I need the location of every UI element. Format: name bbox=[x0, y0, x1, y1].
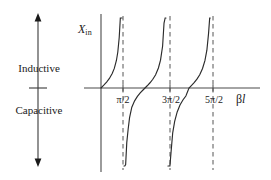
x-tick-label-2: 5π/2 bbox=[197, 94, 231, 105]
reactance-curves bbox=[101, 18, 210, 166]
asymptote-lines bbox=[123, 16, 213, 170]
arrow-down-icon bbox=[35, 159, 42, 168]
arrow-up-icon bbox=[35, 13, 42, 22]
reactance-sign-arrow bbox=[29, 13, 47, 167]
y-axis-label: Xin bbox=[78, 23, 92, 37]
x-tick-label-0: π/2 bbox=[109, 94, 137, 105]
x-axis-label-variable: l bbox=[242, 92, 245, 106]
curve-branch-3 bbox=[168, 18, 210, 166]
curve-branch-1 bbox=[101, 18, 122, 88]
inductive-label: Inductive bbox=[8, 63, 70, 74]
curve-branch-2 bbox=[124, 18, 166, 166]
y-axis-label-subscript: in bbox=[85, 28, 92, 37]
capacitive-label: Capacitive bbox=[5, 105, 73, 116]
x-axis-label: βl bbox=[236, 93, 245, 105]
plot-svg bbox=[0, 0, 271, 180]
x-tick-label-1: 3π/2 bbox=[154, 94, 188, 105]
plot-axes bbox=[84, 14, 260, 172]
figure-container: Inductive Capacitive Xin βl π/2 3π/2 5π/… bbox=[0, 0, 271, 180]
